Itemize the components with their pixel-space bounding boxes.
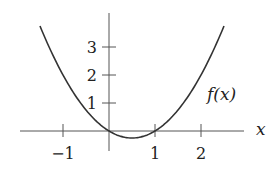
x-tick-label: 2 [196, 144, 206, 163]
x-tick-label: −1 [51, 144, 75, 163]
plot: −1 1 2 1 2 3 x f(x) [0, 0, 280, 173]
y-tick-label: 3 [87, 38, 97, 57]
y-tick-label: 2 [87, 66, 97, 85]
x-axis-label: x [256, 119, 266, 139]
x-tick-label: 1 [150, 144, 160, 163]
y-tick-label: 1 [87, 94, 97, 113]
curve-label: f(x) [205, 84, 236, 104]
function-curve [40, 26, 224, 138]
